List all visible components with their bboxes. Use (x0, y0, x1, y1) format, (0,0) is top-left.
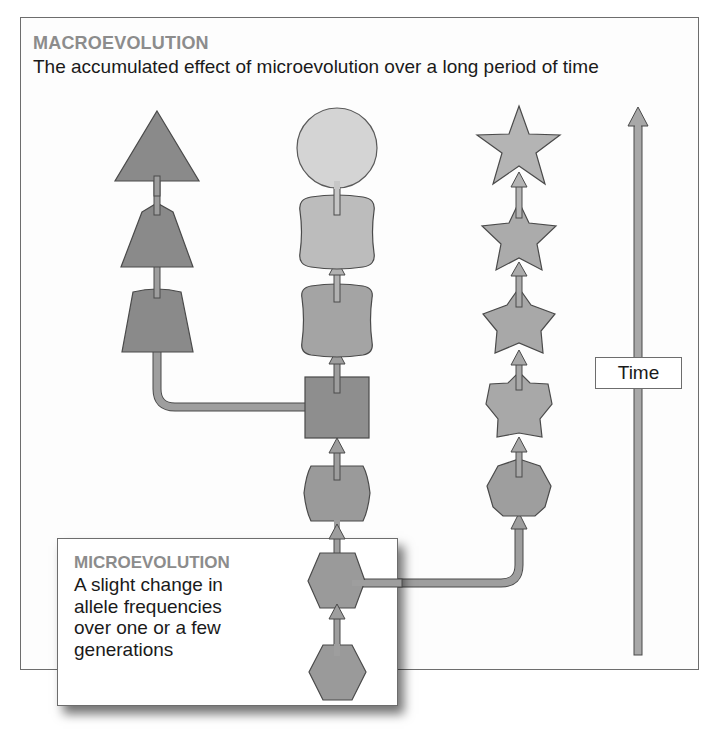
microevolution-description: A slight change in allele frequencies ov… (74, 574, 244, 660)
microevolution-panel: MICROEVOLUTION A slight change in allele… (57, 538, 398, 706)
right-lineage (355, 106, 560, 583)
time-label: Time (595, 357, 682, 389)
triangle-shape (115, 111, 199, 181)
middle-lineage (297, 108, 377, 521)
circle-shape (297, 108, 377, 188)
microevolution-title: MICROEVOLUTION (74, 553, 230, 573)
left-lineage (115, 111, 320, 407)
